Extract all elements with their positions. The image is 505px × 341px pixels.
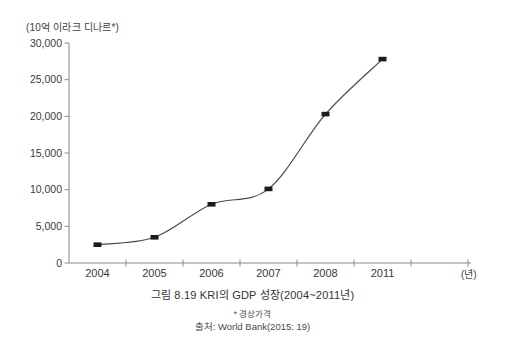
x-tick-label: 2005 — [142, 267, 166, 279]
figure-caption: 그림 8.19 KRI의 GDP 성장(2004~2011년) — [0, 286, 505, 302]
x-tick-label: 2008 — [313, 267, 337, 279]
y-tick-label: 0 — [56, 257, 62, 269]
x-tick-label: 2007 — [256, 267, 280, 279]
data-marker — [265, 187, 273, 192]
chart-svg: 05,00010,00015,00020,00025,00030,0002004… — [0, 0, 505, 285]
y-tick-label: 25,000 — [30, 73, 62, 85]
figure-source: 출처: World Bank(2015: 19) — [0, 319, 505, 333]
x-axis-unit-label: (년) — [461, 266, 477, 281]
y-axis-unit-label: (10억 이라크 디나르*) — [26, 19, 119, 34]
y-tick-label: 30,000 — [30, 37, 62, 49]
figure: 05,00010,00015,00020,00025,00030,0002004… — [0, 0, 505, 341]
data-marker — [94, 242, 102, 247]
y-tick-label: 20,000 — [30, 110, 62, 122]
data-marker — [379, 57, 387, 62]
data-marker — [322, 112, 330, 117]
x-tick-label: 2006 — [199, 267, 223, 279]
figure-footnote: * 경상가격 — [0, 307, 505, 319]
x-tick-label: 2011 — [371, 267, 395, 279]
data-line — [98, 59, 383, 245]
data-marker — [208, 202, 216, 207]
y-tick-label: 10,000 — [30, 183, 62, 195]
x-tick-label: 2004 — [85, 267, 109, 279]
y-tick-label: 15,000 — [30, 147, 62, 159]
y-tick-label: 5,000 — [36, 220, 62, 232]
data-marker — [151, 235, 159, 240]
